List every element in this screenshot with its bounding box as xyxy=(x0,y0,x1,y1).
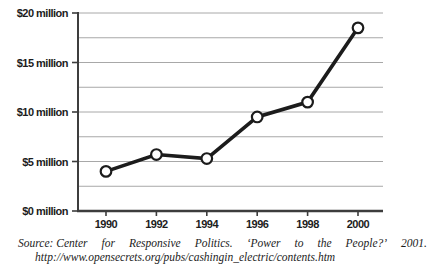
y-tick-label: $15 million xyxy=(17,57,69,69)
line-chart: $0 million$5 million$10 million$15 milli… xyxy=(0,0,431,232)
data-point xyxy=(302,97,313,108)
x-tick-label: 1992 xyxy=(145,218,168,230)
data-point xyxy=(252,112,263,123)
data-point xyxy=(353,23,364,34)
y-tick-label: $5 million xyxy=(22,156,69,168)
source-text: Responsive xyxy=(129,237,181,250)
source-url: http://www.opensecrets.org/pubs/cashingi… xyxy=(35,251,431,264)
source-text: the xyxy=(318,237,332,250)
source-line-1: Source: Center for Responsive Politics. … xyxy=(18,237,427,250)
data-point xyxy=(101,166,112,177)
source-text: Politics. xyxy=(195,237,233,250)
chart-figure: $0 million$5 million$10 million$15 milli… xyxy=(0,0,431,274)
source-text: for xyxy=(102,237,115,250)
x-tick-label: 1996 xyxy=(246,218,269,230)
x-tick-label: 1998 xyxy=(296,218,319,230)
source-note: Source: Center for Responsive Politics. … xyxy=(0,237,431,264)
data-point xyxy=(202,153,213,164)
x-tick-label: 2000 xyxy=(347,218,370,230)
source-text: Source: Center xyxy=(18,237,88,250)
y-tick-label: $10 million xyxy=(17,106,69,118)
data-line xyxy=(106,28,358,172)
source-text: ‘Power xyxy=(247,237,281,250)
x-tick-label: 1994 xyxy=(196,218,220,230)
source-text: People?’ xyxy=(346,237,388,250)
y-tick-label: $0 million xyxy=(22,205,69,217)
source-text: to xyxy=(295,237,304,250)
data-point xyxy=(151,149,162,160)
y-tick-label: $20 million xyxy=(17,7,69,19)
x-tick-label: 1990 xyxy=(95,218,118,230)
source-text: 2001. xyxy=(401,237,427,250)
